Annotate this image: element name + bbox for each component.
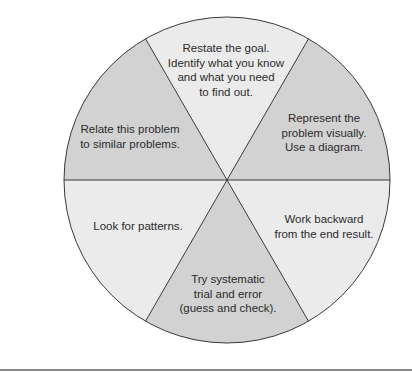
segment-bottom-label: Try systematic trial and error (guess an… [179, 273, 276, 314]
label-line: to similar problems. [80, 138, 180, 150]
label-line: (guess and check). [179, 302, 276, 314]
label-line: Try systematic [191, 273, 265, 285]
label-line: Use a diagram. [285, 141, 363, 153]
label-line: Represent the [288, 112, 360, 124]
segment-top-right-label: Represent the problem visually. Use a di… [282, 112, 367, 153]
problem-solving-wheel: Restate the goal. Identify what you know… [0, 0, 412, 373]
label-line: Work backward [284, 213, 363, 225]
label-line: problem visually. [282, 127, 367, 139]
label-line: and what you need [177, 71, 274, 83]
label-line: to find out. [199, 86, 253, 98]
label-line: Relate this problem [80, 123, 179, 135]
label-line: trial and error [194, 288, 263, 300]
label-line: Look for patterns. [93, 220, 183, 232]
bottom-rule [0, 369, 412, 371]
label-line: Identify what you know [168, 57, 285, 69]
segment-bottom-left-label: Look for patterns. [93, 220, 183, 232]
label-line: Restate the goal. [183, 42, 270, 54]
label-line: from the end result. [274, 228, 373, 240]
